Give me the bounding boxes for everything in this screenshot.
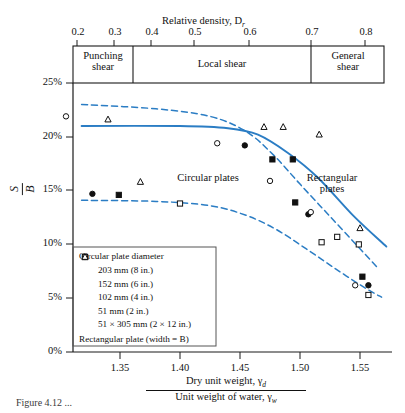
data-point-filled-square xyxy=(270,157,275,162)
legend-item: 152 mm (6 in.) xyxy=(79,277,213,291)
data-point-filled-square xyxy=(290,157,295,162)
data-point-filled-square xyxy=(293,200,298,205)
top-tick-label-3: 0.5 xyxy=(185,27,205,38)
data-point-open-triangle xyxy=(261,124,267,130)
figure-caption: Figure 4.12 ... xyxy=(16,398,396,408)
bottom-tick-label-3: 1.50 xyxy=(283,363,317,374)
data-point-open-square xyxy=(319,240,324,245)
data-point-open-triangle xyxy=(316,131,322,137)
annotation-rectangular-plates: Rectangularplates xyxy=(296,173,368,194)
data-point-open-square xyxy=(356,242,361,247)
bottom-tick-label-0: 1.35 xyxy=(103,363,137,374)
data-point-open-triangle xyxy=(357,225,363,231)
data-point-open-triangle xyxy=(105,116,111,122)
zone-label-punching-shear: Punchingshear xyxy=(74,51,132,72)
legend-item: 203 mm (8 in.) xyxy=(79,264,213,278)
y-axis-title: S B xyxy=(8,159,36,219)
bottom-tick-label-1: 1.40 xyxy=(163,363,197,374)
bottom-tick-label-2: 1.45 xyxy=(223,363,257,374)
data-point-open-circle xyxy=(353,283,358,288)
top-tick-label-1: 0.3 xyxy=(105,27,125,38)
legend-item-label: 51 × 305 mm (2 × 12 in.) xyxy=(98,319,191,329)
legend-item: 51 mm (2 in.) xyxy=(79,304,213,318)
top-tick-label-0: 0.2 xyxy=(68,27,88,38)
top-tick-label-5: 0.7 xyxy=(302,27,322,38)
data-point-open-circle xyxy=(215,141,220,146)
data-point-open-square xyxy=(177,201,182,206)
zone-label-local-shear: Local shear xyxy=(135,59,309,70)
data-point-filled-circle xyxy=(366,283,371,288)
legend-item-label: 203 mm (8 in.) xyxy=(98,265,153,275)
data-point-open-triangle xyxy=(137,179,143,185)
data-point-open-square xyxy=(366,292,371,297)
data-point-filled-circle xyxy=(242,143,247,148)
legend-title: Circular plate diameter xyxy=(79,251,213,261)
figure-settlement-vs-dry-unit-weight: Relative density, Dr 0.2 0.3 0.4 0.5 0.6… xyxy=(0,0,405,413)
data-point-open-triangle xyxy=(280,124,286,130)
data-point-open-circle xyxy=(63,114,68,119)
top-tick-label-6: 0.8 xyxy=(356,27,376,38)
y-tick-label-0: 0% xyxy=(24,346,62,357)
y-axis-title-denominator: B xyxy=(23,185,37,192)
bottom-tick-label-4: 1.55 xyxy=(343,363,377,374)
data-point-open-circle xyxy=(267,178,272,183)
legend-item: 51 × 305 mm (2 × 12 in.) xyxy=(79,318,213,332)
y-tick-label-20: 20% xyxy=(24,131,62,142)
data-point-filled-square xyxy=(116,192,121,197)
data-point-open-square xyxy=(335,234,340,239)
data-point-open-circle xyxy=(308,209,313,214)
zone-label-general-shear: Generalshear xyxy=(313,51,383,72)
top-axis-ticks xyxy=(77,40,365,46)
legend-footer: Rectangular plate (width = B) xyxy=(79,334,213,344)
legend-item: 102 mm (4 in.) xyxy=(79,291,213,305)
legend-item-label: 152 mm (6 in.) xyxy=(98,279,153,289)
legend: Circular plate diameter 203 mm (8 in.)15… xyxy=(79,251,213,344)
y-axis-ticks xyxy=(66,83,73,352)
data-point-filled-circle xyxy=(90,191,95,196)
y-axis-title-numerator: S xyxy=(7,186,21,192)
top-tick-label-2: 0.4 xyxy=(142,27,162,38)
y-tick-label-25: 25% xyxy=(24,77,62,88)
top-tick-label-4: 0.6 xyxy=(240,27,260,38)
data-point-filled-square xyxy=(360,274,365,279)
bottom-axis-ticks xyxy=(120,352,360,359)
y-tick-label-5: 5% xyxy=(24,292,62,303)
annotation-circular-plates: Circular plates xyxy=(166,173,250,184)
legend-item-label: 102 mm (4 in.) xyxy=(98,292,153,302)
bottom-axis-title-numerator: Dry unit weight, γd xyxy=(146,376,306,389)
y-tick-label-10: 10% xyxy=(24,238,62,249)
legend-item-label: 51 mm (2 in.) xyxy=(98,306,149,316)
